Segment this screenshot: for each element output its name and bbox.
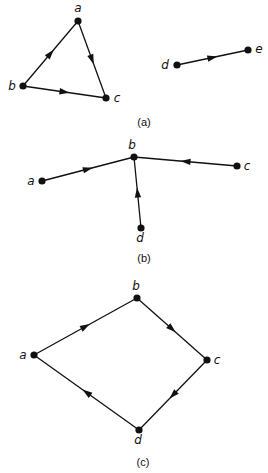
node-b bbox=[130, 153, 137, 160]
node-a bbox=[74, 17, 81, 24]
node-b bbox=[133, 294, 140, 301]
node-label-e: e bbox=[255, 42, 262, 56]
node-e bbox=[244, 46, 251, 53]
arrowhead-icon bbox=[207, 53, 218, 61]
node-d bbox=[173, 61, 180, 68]
node-label-c: c bbox=[214, 353, 221, 367]
node-label-c: c bbox=[114, 91, 121, 105]
node-label-a: a bbox=[74, 1, 81, 15]
diagram-caption: (b) bbox=[137, 252, 150, 264]
diagram-b: bacd(b) bbox=[27, 138, 250, 264]
diagram-a: abcde(a) bbox=[8, 1, 263, 128]
node-b bbox=[19, 82, 26, 89]
arrowhead-icon bbox=[87, 54, 96, 66]
node-label-b: b bbox=[128, 138, 136, 152]
node-c bbox=[102, 94, 109, 101]
node-c bbox=[203, 356, 210, 363]
arrowhead-icon bbox=[81, 387, 93, 398]
node-label-d: d bbox=[161, 58, 169, 72]
arrowhead-icon bbox=[134, 187, 141, 198]
arrowhead-icon bbox=[80, 321, 92, 331]
node-label-b: b bbox=[8, 79, 16, 93]
arrowhead-icon bbox=[82, 165, 93, 174]
diagram-caption: (c) bbox=[137, 456, 150, 468]
arrowhead-icon bbox=[180, 158, 191, 165]
node-label-c: c bbox=[244, 159, 251, 173]
node-c bbox=[233, 162, 240, 169]
diagram-c: bacd(c) bbox=[19, 279, 220, 468]
node-label-d: d bbox=[134, 433, 142, 447]
node-label-a: a bbox=[27, 174, 34, 188]
node-a bbox=[38, 177, 45, 184]
graph-figure: abcde(a) bacd(b) bacd(c) bbox=[0, 0, 268, 473]
node-label-b: b bbox=[132, 279, 140, 293]
node-label-a: a bbox=[19, 348, 26, 362]
node-label-d: d bbox=[136, 231, 144, 245]
node-a bbox=[30, 351, 37, 358]
diagram-caption: (a) bbox=[137, 116, 150, 128]
